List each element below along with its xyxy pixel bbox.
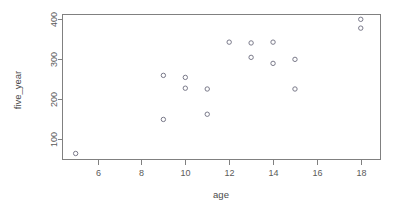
- x-tick-label: 18: [356, 168, 366, 178]
- x-tick-label: 16: [312, 168, 322, 178]
- x-tick-label: 8: [139, 168, 144, 178]
- x-tick-label: 6: [96, 168, 101, 178]
- x-axis-title: age: [213, 189, 229, 200]
- y-axis-title: five_year: [12, 71, 23, 110]
- y-tick-label: 400: [49, 12, 59, 27]
- x-tick-label: 10: [180, 168, 190, 178]
- y-tick-label: 300: [49, 52, 59, 67]
- y-tick-label: 100: [49, 132, 59, 147]
- scatter-plot-figure: 681012141618 100200300400 age five_year: [0, 0, 399, 210]
- plot-canvas: 681012141618 100200300400 age five_year: [0, 0, 399, 210]
- y-tick-label: 200: [49, 92, 59, 107]
- x-tick-label: 12: [224, 168, 234, 178]
- x-tick-label: 14: [268, 168, 278, 178]
- figure-background: [0, 0, 399, 210]
